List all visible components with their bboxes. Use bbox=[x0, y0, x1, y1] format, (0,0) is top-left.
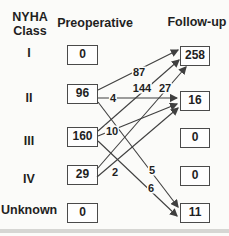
count-label-iv-to-ii: 2 bbox=[111, 167, 119, 178]
count-label-iii-to-unknown: 6 bbox=[147, 183, 155, 194]
arrow-iv-to-ii bbox=[97, 108, 178, 177]
transition-arrows-layer bbox=[0, 0, 229, 236]
count-label-iv-to-i: 27 bbox=[158, 83, 172, 94]
nyha-transition-diagram: NYHA Class Preoperative Follow-up I II I… bbox=[0, 0, 229, 236]
arrow-iii-to-unknown bbox=[98, 141, 177, 216]
count-label-ii-to-i: 87 bbox=[132, 67, 146, 78]
count-label-iii-to-i: 144 bbox=[132, 83, 152, 94]
count-label-ii-to-ii: 4 bbox=[109, 93, 117, 104]
count-label-ii-to-unknown: 5 bbox=[148, 165, 156, 176]
count-label-iii-to-ii: 10 bbox=[105, 126, 119, 137]
